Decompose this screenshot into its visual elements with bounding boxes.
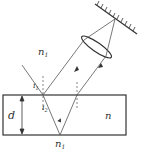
label-n-slab: n <box>105 110 111 121</box>
thickness-arrow <box>20 96 24 134</box>
label-n1-top: n1 <box>38 46 48 58</box>
light-rays <box>22 19 115 135</box>
lens <box>79 33 114 61</box>
label-n1-bottom: n1 <box>55 138 65 150</box>
thin-film-diagram: n1 n n1 d i1 i2 <box>0 0 143 152</box>
mirror <box>95 1 137 34</box>
label-d: d <box>8 109 15 122</box>
ray-arrows <box>57 63 103 123</box>
label-i1: i1 <box>33 81 39 91</box>
